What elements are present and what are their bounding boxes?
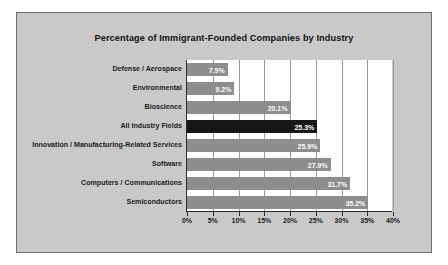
bar-row[interactable]: 35.2% — [187, 196, 393, 209]
x-axis-tick-label: 40% — [386, 217, 400, 224]
chart-title: Percentage of Immigrant-Founded Companie… — [17, 33, 431, 43]
x-axis-tick-label: 0% — [182, 217, 192, 224]
gridline — [393, 60, 394, 211]
bar[interactable]: 27.9% — [187, 158, 331, 171]
bar-value-label: 20.1% — [268, 104, 288, 111]
plot-area: 0%5%10%15%20%25%30%35%40%7.9%9.2%20.1%25… — [186, 60, 392, 212]
bar-value-label: 7.9% — [209, 66, 225, 73]
x-axis-tick-label: 20% — [283, 217, 297, 224]
category-label: Semiconductors — [126, 196, 182, 209]
bar-row[interactable]: 25.3% — [187, 120, 393, 133]
bar-value-label: 27.9% — [308, 161, 328, 168]
category-label: Defense / Aerospace — [112, 63, 182, 76]
bar[interactable]: 7.9% — [187, 63, 228, 76]
x-axis-tick-label: 35% — [360, 217, 374, 224]
category-label: Environmental — [133, 82, 182, 95]
bar[interactable]: 31.7% — [187, 177, 350, 190]
bar-row[interactable]: 20.1% — [187, 101, 393, 114]
bar-value-label: 9.2% — [215, 85, 231, 92]
bar-row[interactable]: 9.2% — [187, 82, 393, 95]
bar[interactable]: 9.2% — [187, 82, 234, 95]
bar[interactable]: 25.9% — [187, 139, 320, 152]
x-axis-tick — [290, 212, 291, 216]
bar-row[interactable]: 27.9% — [187, 158, 393, 171]
x-axis-tick-label: 5% — [208, 217, 218, 224]
bar[interactable]: 35.2% — [187, 196, 368, 209]
category-label: Computers / Communications — [81, 177, 182, 190]
x-axis-tick-label: 15% — [257, 217, 271, 224]
category-label: Bioscience — [145, 101, 182, 114]
x-axis-tick — [187, 212, 188, 216]
chart-panel: Percentage of Immigrant-Founded Companie… — [16, 12, 432, 253]
bar-value-label: 25.9% — [298, 142, 318, 149]
x-axis-tick — [342, 212, 343, 216]
chart-screenshot: Percentage of Immigrant-Founded Companie… — [0, 0, 448, 265]
bar-row[interactable]: 7.9% — [187, 63, 393, 76]
x-axis-tick — [316, 212, 317, 216]
category-label: Innovation / Manufacturing-Related Servi… — [32, 139, 182, 152]
bar-row[interactable]: 25.9% — [187, 139, 393, 152]
x-axis-tick — [393, 212, 394, 216]
bar-value-label: 35.2% — [345, 199, 365, 206]
category-axis: Defense / AerospaceEnvironmentalBioscien… — [17, 60, 182, 212]
bar[interactable]: 20.1% — [187, 101, 291, 114]
x-axis-tick-label: 25% — [309, 217, 323, 224]
x-axis-tick-label: 30% — [334, 217, 348, 224]
x-axis-tick — [239, 212, 240, 216]
x-axis-tick — [367, 212, 368, 216]
category-label: Software — [152, 158, 182, 171]
bar-row[interactable]: 31.7% — [187, 177, 393, 190]
bar-value-label: 31.7% — [327, 180, 347, 187]
bar[interactable]: 25.3% — [187, 120, 317, 133]
x-axis-tick-label: 10% — [231, 217, 245, 224]
x-axis-tick — [213, 212, 214, 216]
bar-value-label: 25.3% — [294, 123, 314, 130]
x-axis-tick — [264, 212, 265, 216]
category-label: All Industry Fields — [121, 120, 183, 133]
